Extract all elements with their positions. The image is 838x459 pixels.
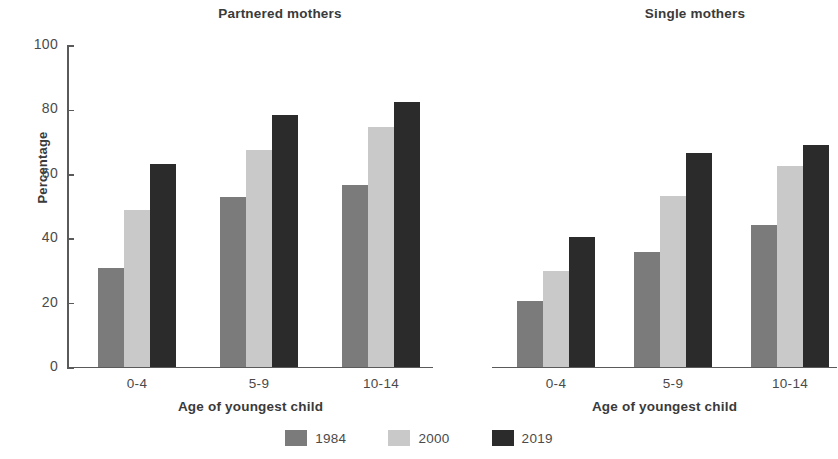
bar-2000-0-4 <box>124 210 150 366</box>
x-axis-tick-label: 0-4 <box>92 376 182 391</box>
legend-label: 2000 <box>418 431 449 446</box>
x-axis-tick-label: 10-14 <box>336 376 426 391</box>
y-axis-tick-label: 60 <box>12 165 58 181</box>
bar-1984-10-14 <box>751 225 777 366</box>
bar-1984-0-4 <box>98 268 124 366</box>
y-axis-tick-label: 20 <box>12 294 58 310</box>
y-axis-tick-label: 0 <box>12 358 58 374</box>
bar-2000-10-14 <box>777 166 803 367</box>
legend-item-1984: 1984 <box>285 430 346 446</box>
plot-area-single-mothers <box>492 46 837 368</box>
bar-2019-10-14 <box>803 145 829 367</box>
x-axis-title-right: Age of youngest child <box>492 399 837 414</box>
bar-group <box>634 46 712 367</box>
bar-2019-0-4 <box>569 237 595 367</box>
bar-2019-0-4 <box>150 164 176 367</box>
bar-2000-5-9 <box>660 196 686 367</box>
bar-2000-10-14 <box>368 127 394 367</box>
x-axis-line-right <box>492 367 837 369</box>
bar-group <box>220 46 298 367</box>
x-axis-tick-label: 5-9 <box>214 376 304 391</box>
x-axis-tick-label: 0-4 <box>511 376 601 391</box>
x-axis-title-left: Age of youngest child <box>68 399 433 414</box>
panel-title-partnered-mothers: Partnered mothers <box>125 6 435 21</box>
y-axis-tick-label: 80 <box>12 100 58 116</box>
legend-label: 2019 <box>522 431 553 446</box>
legend-swatch-icon <box>285 430 307 446</box>
bar-2000-0-4 <box>543 271 569 366</box>
plot-area-partnered-mothers <box>68 46 433 368</box>
bar-2019-5-9 <box>272 115 298 366</box>
bar-chart-figure: Partnered mothers Single mothers Percent… <box>0 0 838 459</box>
x-axis-tick-label: 10-14 <box>745 376 835 391</box>
bar-2000-5-9 <box>246 150 272 366</box>
bar-group <box>517 46 595 367</box>
bar-1984-0-4 <box>517 301 543 366</box>
bar-2019-10-14 <box>394 102 420 367</box>
x-axis-line-left <box>68 367 433 369</box>
y-axis-tick-label: 40 <box>12 229 58 245</box>
x-axis-tick-label: 5-9 <box>628 376 718 391</box>
legend-item-2019: 2019 <box>492 430 553 446</box>
y-axis-tick-label: 100 <box>12 36 58 52</box>
bar-group <box>751 46 829 367</box>
legend-swatch-icon <box>388 430 410 446</box>
bar-group <box>342 46 420 367</box>
chart-legend: 198420002019 <box>0 430 838 446</box>
legend-swatch-icon <box>492 430 514 446</box>
bar-group <box>98 46 176 367</box>
bar-1984-5-9 <box>220 197 246 366</box>
legend-item-2000: 2000 <box>388 430 449 446</box>
legend-label: 1984 <box>315 431 346 446</box>
bar-1984-10-14 <box>342 185 368 367</box>
panel-title-single-mothers: Single mothers <box>545 6 838 21</box>
bar-2019-5-9 <box>686 153 712 367</box>
bar-1984-5-9 <box>634 252 660 366</box>
